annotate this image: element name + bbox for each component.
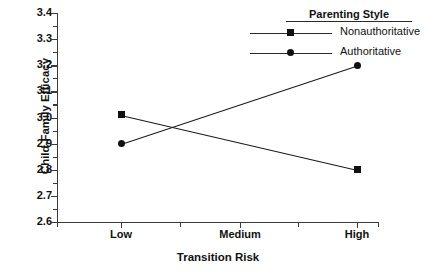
y-tick-label: 2.8 — [18, 164, 52, 175]
series-line-authoritative — [121, 65, 357, 144]
legend-entry-label: Nonauthoritative — [340, 25, 420, 37]
line-chart-figure: Child-Family Efficacy 3.43.33.23.13.02.9… — [0, 0, 435, 277]
x-tick-label: Low — [81, 228, 161, 240]
x-minor-tick — [57, 223, 58, 227]
y-major-tick — [51, 196, 57, 197]
circle-marker-icon — [287, 49, 294, 56]
y-tick-label: 3.4 — [18, 7, 52, 18]
y-tick-label: 3.2 — [18, 59, 52, 70]
y-tick-label: 3.0 — [18, 112, 52, 123]
y-minor-tick — [53, 209, 57, 210]
y-minor-tick — [53, 104, 57, 105]
y-minor-tick — [53, 157, 57, 158]
x-minor-tick — [180, 223, 181, 227]
legend: Parenting Style Nonauthoritative Authori… — [250, 8, 430, 62]
series-line-nonauthoritative — [121, 115, 357, 171]
y-tick-label-wrap: 3.1 — [0, 85, 52, 86]
y-minor-tick — [53, 26, 57, 27]
y-tick-label-wrap: 2.9 — [0, 138, 52, 139]
y-tick-label: 3.3 — [18, 33, 52, 44]
legend-title: Parenting Style — [286, 8, 412, 22]
data-point-nonauthoritative-low — [118, 111, 125, 118]
legend-entry-authoritative: Authoritative — [250, 45, 430, 62]
y-major-tick — [51, 144, 57, 145]
data-point-authoritative-low — [118, 140, 125, 147]
x-minor-tick — [298, 223, 299, 227]
y-major-tick — [51, 13, 57, 14]
y-major-tick — [51, 39, 57, 40]
y-minor-tick — [53, 52, 57, 53]
y-minor-tick — [53, 183, 57, 184]
data-point-authoritative-high — [354, 62, 361, 69]
legend-entry-label: Authoritative — [340, 45, 401, 57]
y-tick-label: 2.6 — [18, 216, 52, 227]
y-tick-label-wrap: 2.6 — [0, 216, 52, 217]
y-tick-label-wrap: 3.0 — [0, 112, 52, 113]
y-minor-tick — [53, 78, 57, 79]
x-tick-label: High — [317, 228, 397, 240]
y-minor-tick — [53, 131, 57, 132]
x-minor-tick — [378, 223, 379, 227]
x-axis-line — [57, 222, 379, 223]
y-major-tick — [51, 65, 57, 66]
y-tick-label-wrap: 2.7 — [0, 190, 52, 191]
square-marker-icon — [287, 29, 294, 36]
y-major-tick — [51, 91, 57, 92]
data-point-nonauthoritative-high — [354, 166, 361, 173]
y-tick-label-wrap: 3.4 — [0, 7, 52, 8]
x-tick-label: Medium — [200, 228, 280, 240]
y-tick-label: 2.9 — [18, 138, 52, 149]
y-tick-label-wrap: 3.3 — [0, 33, 52, 34]
y-tick-label-wrap: 2.8 — [0, 164, 52, 165]
x-axis-title: Transition Risk — [57, 251, 379, 263]
y-tick-label: 3.1 — [18, 85, 52, 96]
y-tick-label: 2.7 — [18, 190, 52, 201]
legend-entry-nonauthoritative: Nonauthoritative — [250, 25, 430, 42]
y-major-tick — [51, 118, 57, 119]
y-major-tick — [51, 170, 57, 171]
y-axis-line — [57, 13, 58, 223]
y-tick-label-wrap: 3.2 — [0, 59, 52, 60]
